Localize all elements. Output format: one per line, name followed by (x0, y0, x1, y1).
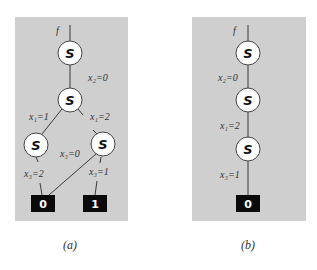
edge-label-b-x1-2: x₁=2 (219, 120, 240, 131)
node-b-1: S (236, 41, 260, 65)
node-b-3: S (236, 137, 260, 161)
node-a-right: S (91, 132, 115, 156)
node-a-left: S (24, 133, 48, 157)
edge-label-a-x2-0: x₂=0 (87, 72, 108, 83)
edge-label-a-x3-2: x₃=2 (23, 168, 44, 179)
edge-label-a-x3-0: x₃=0 (59, 148, 80, 159)
terminal-a-1: 1 (83, 195, 107, 212)
svg-text:S: S (243, 142, 252, 157)
edge-label-b-x3-1: x₃=1 (219, 169, 240, 180)
svg-text:S: S (65, 46, 74, 61)
terminal-b-0: 0 (236, 195, 260, 212)
svg-text:S: S (31, 138, 40, 153)
svg-text:S: S (243, 46, 252, 61)
decision-diagram-figure: f S x₂=0 S x₁=1 x₁=2 S S x₃=0 x₃=2 x₃=1 … (0, 0, 317, 270)
panel-b: f S x₂=0 S x₁=2 S x₃=1 0 (b) (192, 17, 306, 252)
svg-text:0: 0 (39, 198, 47, 211)
caption-a: (a) (63, 238, 77, 252)
caption-b: (b) (241, 238, 255, 252)
edge-label-a-x3-1: x₃=1 (88, 166, 109, 177)
node-a-mid: S (58, 88, 82, 112)
svg-text:S: S (65, 93, 74, 108)
edge-label-b-x2-0: x₂=0 (217, 72, 238, 83)
edge-label-a-x1-2: x₁=2 (89, 111, 110, 122)
svg-text:S: S (98, 137, 107, 152)
node-a-root: S (58, 41, 82, 65)
svg-text:0: 0 (244, 198, 252, 211)
edge-label-a-x1-1: x₁=1 (28, 111, 49, 122)
node-b-2: S (236, 88, 260, 112)
svg-text:1: 1 (91, 198, 99, 211)
terminal-a-0: 0 (31, 195, 55, 212)
panel-a: f S x₂=0 S x₁=1 x₁=2 S S x₃=0 x₃=2 x₃=1 … (15, 17, 128, 252)
svg-text:S: S (243, 93, 252, 108)
